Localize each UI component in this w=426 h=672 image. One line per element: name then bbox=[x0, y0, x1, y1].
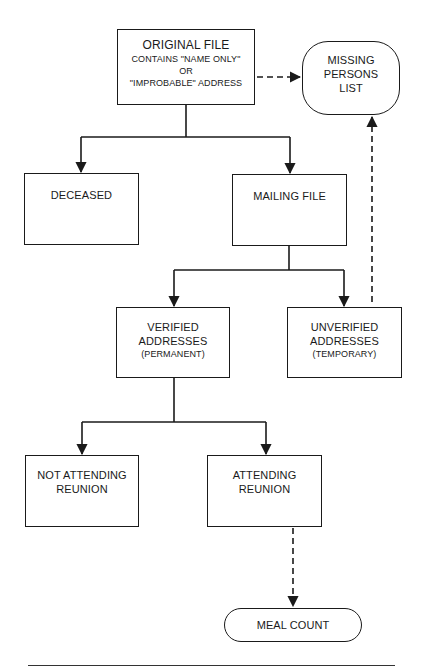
node-mailing-file: MAILING FILE bbox=[232, 174, 347, 246]
node-label: OR bbox=[118, 65, 254, 77]
node-label: LIST bbox=[303, 81, 399, 95]
node-label: NOT ATTENDING bbox=[26, 468, 138, 482]
node-verified-addresses: VERIFIED ADDRESSES (PERMANENT) bbox=[116, 307, 230, 378]
node-label: ORIGINAL FILE bbox=[118, 38, 254, 53]
node-label: PERSONS bbox=[303, 67, 399, 81]
node-deceased: DECEASED bbox=[24, 173, 139, 245]
node-label: CONTAINS "NAME ONLY" bbox=[118, 53, 254, 65]
bottom-rule-divider bbox=[28, 665, 395, 666]
node-label: REUNION bbox=[26, 482, 138, 496]
node-meal-count: MEAL COUNT bbox=[224, 608, 362, 642]
node-not-attending-reunion: NOT ATTENDING REUNION bbox=[25, 455, 139, 527]
node-label: REUNION bbox=[208, 482, 321, 496]
node-label: UNVERIFIED bbox=[288, 320, 401, 334]
node-unverified-addresses: UNVERIFIED ADDRESSES (TEMPORARY) bbox=[287, 307, 402, 378]
node-missing-persons-list: MISSING PERSONS LIST bbox=[302, 41, 400, 115]
node-label: (TEMPORARY) bbox=[288, 348, 401, 360]
node-label: MISSING bbox=[303, 53, 399, 67]
node-label: MEAL COUNT bbox=[225, 618, 361, 632]
node-original-file: ORIGINAL FILE CONTAINS "NAME ONLY" OR "I… bbox=[117, 29, 255, 105]
node-label: DECEASED bbox=[25, 188, 138, 202]
node-label: MAILING FILE bbox=[233, 189, 346, 203]
node-label: "IMPROBABLE" ADDRESS bbox=[118, 77, 254, 89]
node-attending-reunion: ATTENDING REUNION bbox=[207, 455, 322, 527]
node-label: VERIFIED bbox=[117, 320, 229, 334]
node-label: ADDRESSES bbox=[117, 334, 229, 348]
node-label: ADDRESSES bbox=[288, 334, 401, 348]
node-label: ATTENDING bbox=[208, 468, 321, 482]
node-label: (PERMANENT) bbox=[117, 348, 229, 360]
